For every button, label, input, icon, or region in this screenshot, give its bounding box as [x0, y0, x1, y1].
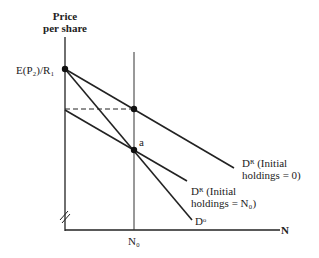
curve-dr-initial-n0 — [65, 110, 187, 181]
y-tick-label: E(P₂)/R₁ — [16, 64, 54, 76]
curve-do — [65, 69, 192, 220]
curve-label-do: Dᵒ — [195, 215, 206, 227]
demand-diagram — [0, 0, 319, 258]
curve-label-line: holdings = N₀) — [191, 197, 256, 209]
point-a — [131, 147, 137, 153]
curve-label-dr-initial-0: Dᴿ (Initial holdings = 0) — [242, 157, 301, 181]
x-axis-label: N — [281, 224, 289, 236]
point-a-label: a — [139, 136, 144, 148]
y-axis-label-line2: per share — [42, 22, 88, 34]
axis-break-mark — [60, 211, 68, 220]
point-upper — [131, 106, 137, 112]
curve-label-line: Dᴿ (Initial — [242, 157, 301, 169]
curve-label-dr-initial-n0: Dᴿ (Initial holdings = N₀) — [191, 185, 256, 209]
y-axis-label-line1: Price — [42, 10, 88, 22]
x-tick-label: N₀ — [128, 235, 140, 247]
y-axis-label: Price per share — [42, 10, 88, 34]
point-top — [62, 66, 68, 72]
curve-dr-initial-0 — [65, 69, 234, 168]
curve-label-line: Dᴿ (Initial — [191, 185, 256, 197]
curve-label-line: holdings = 0) — [242, 169, 301, 181]
axis-break-mark — [62, 214, 70, 223]
